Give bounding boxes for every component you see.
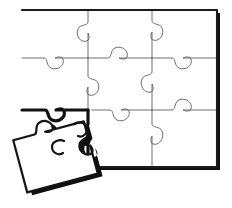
jigsaw-puzzle-illustration: Jigsaw Puzzle With One Missing Piece A t…: [0, 0, 232, 208]
illustration-canvas: Jigsaw Puzzle With One Missing Piece A t…: [0, 0, 232, 208]
